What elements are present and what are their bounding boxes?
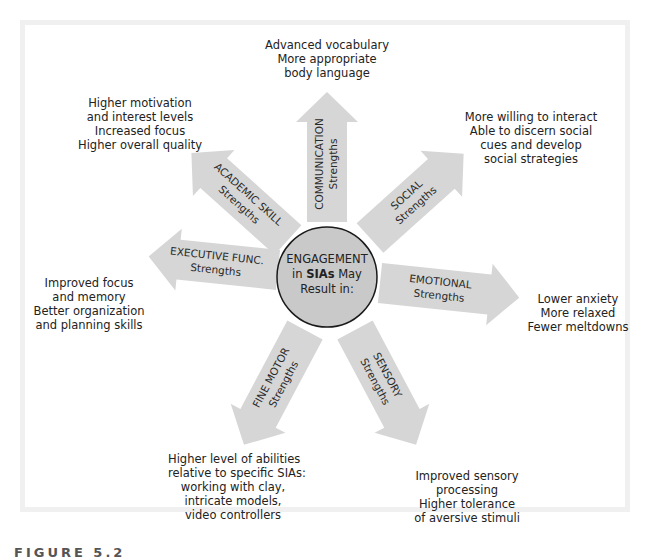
outcome-social: More willing to interact Able to discern… — [451, 110, 611, 166]
center-line-3: Result in: — [277, 282, 377, 297]
arrow-emotional: EMOTIONAL Strengths — [377, 252, 523, 328]
outcome-emotional: Lower anxiety More relaxed Fewer meltdow… — [522, 292, 634, 334]
outcome-executive-func: Improved focus and memory Better organiz… — [30, 276, 148, 332]
arrow-communication-subtitle: Strengths — [327, 139, 339, 190]
outcome-academic-skill: Higher motivation and interest levels In… — [72, 96, 208, 152]
figure-caption: FIGURE 5.2 — [14, 545, 125, 560]
arrow-sensory: SENSORY Strengths — [328, 315, 444, 459]
center-line-1: ENGAGEMENT — [277, 252, 377, 267]
outcome-communication: Advanced vocabulary More appropriate bod… — [252, 38, 402, 80]
arrow-communication: COMMUNICATION Strengths — [296, 92, 358, 222]
arrow-fine-motor: FINE MOTOR Strengths — [217, 315, 333, 459]
outcome-fine-motor: Higher level of abilities relative to sp… — [168, 452, 298, 522]
outcome-sensory: Improved sensory processing Higher toler… — [402, 469, 532, 525]
center-line-2: in SIAs May — [277, 267, 377, 282]
arrow-communication-title: COMMUNICATION — [313, 118, 325, 210]
center-label: ENGAGEMENT in SIAs May Result in: — [277, 252, 377, 297]
center-sias-bold: SIAs — [306, 267, 334, 281]
